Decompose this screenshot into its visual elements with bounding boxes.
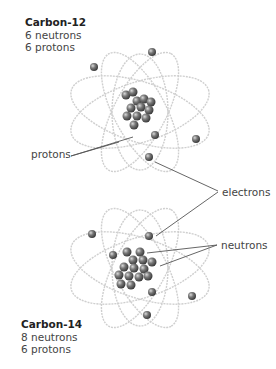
carbon-12-orbits [62,42,217,183]
atom-diagram [0,0,276,369]
carbon-12-electrons [90,48,200,161]
carbon-14-nucleus [115,248,157,290]
carbon-12-nucleus [122,88,156,130]
leader-lines [71,137,218,266]
